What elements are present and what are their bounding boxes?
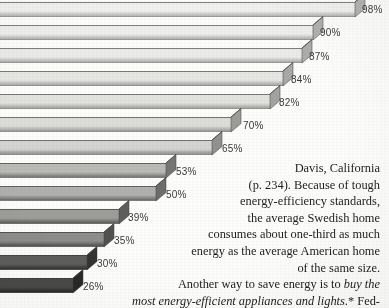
bar-90 xyxy=(0,25,323,40)
bar-value-label-90: 90% xyxy=(320,27,341,38)
bar-70 xyxy=(0,117,241,132)
bar-value-label-84: 84% xyxy=(291,74,312,85)
text-line-6: energy as the average American home xyxy=(0,243,385,260)
bar-end-cap xyxy=(231,117,241,132)
text-line-9-italic: most energy-efficient appliances and lig… xyxy=(132,294,348,308)
bar-82 xyxy=(0,94,280,109)
text-line-7: of the same size. xyxy=(0,260,385,277)
text-line-9-plain: * Fed- xyxy=(348,294,380,308)
text-line-1: Davis, California xyxy=(0,160,385,177)
scanned-page: 98%90%87%84%82%70%65%53%50%39%35%30%26% … xyxy=(0,0,389,308)
text-line-9: most energy-efficient appliances and lig… xyxy=(0,293,385,308)
bar-face xyxy=(0,140,212,155)
bar-face xyxy=(0,117,231,132)
bar-value-label-98: 98% xyxy=(362,4,383,15)
text-line-8: Another way to save energy is to buy the xyxy=(0,276,385,293)
text-line-3: energy-efficiency standards, xyxy=(0,193,385,210)
text-line-8-italic: buy the xyxy=(344,277,380,291)
bar-87 xyxy=(0,48,312,63)
bar-end-cap xyxy=(212,140,222,155)
bar-value-label-87: 87% xyxy=(309,51,330,62)
body-text-column: Davis, California (p. 234). Because of t… xyxy=(0,160,389,308)
bar-84 xyxy=(0,71,293,86)
bar-65 xyxy=(0,140,222,155)
text-line-5: consumes about one-third as much xyxy=(0,226,385,243)
text-line-4: the average Swedish home xyxy=(0,210,385,227)
bar-value-label-65: 65% xyxy=(222,143,243,154)
text-line-8-plain: Another way to save energy is to xyxy=(178,277,344,291)
bar-face xyxy=(0,94,270,109)
bar-value-label-82: 82% xyxy=(279,97,300,108)
bar-face xyxy=(0,25,313,40)
bar-face xyxy=(0,71,283,86)
bar-98 xyxy=(0,2,365,17)
bar-end-cap xyxy=(270,94,280,109)
bar-face xyxy=(0,48,302,63)
text-line-2: (p. 234). Because of tough xyxy=(0,177,385,194)
bar-face xyxy=(0,2,355,17)
bar-value-label-70: 70% xyxy=(243,120,264,131)
